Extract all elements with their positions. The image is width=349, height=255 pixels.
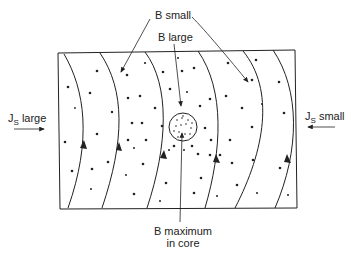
diagram-canvas: B small B large JS large JS small B maxi… xyxy=(0,0,349,255)
label-b-maximum-line1: B maximum xyxy=(148,225,218,237)
label-b-maximum: B maximum in core xyxy=(148,225,218,249)
label-b-small: B small xyxy=(155,9,191,21)
label-b-maximum-line2: in core xyxy=(148,237,218,249)
label-b-large: B large xyxy=(158,31,193,43)
label-js-large: JS large xyxy=(8,112,46,129)
label-js-small: JS small xyxy=(305,110,345,127)
js-small-text: small xyxy=(316,110,345,122)
js-large-text: large xyxy=(19,112,47,124)
vortex-core xyxy=(169,113,197,141)
